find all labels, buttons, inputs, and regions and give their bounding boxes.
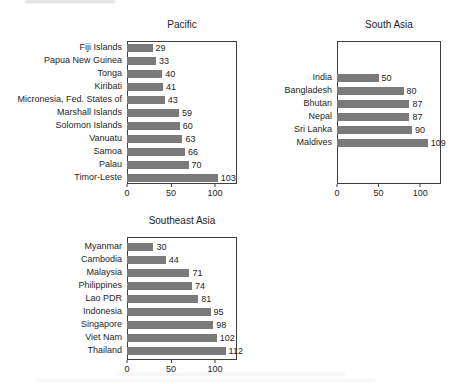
axis-tick: 100 [207, 184, 222, 198]
figure-canvas: Pacific Fiji Islands29Papua New Guinea33… [0, 0, 459, 384]
bar-zone: 44 [127, 253, 237, 266]
bar [127, 269, 189, 277]
chart-row: Lao PDR81 [5, 292, 237, 305]
category-label: Fiji Islands [5, 41, 127, 54]
chart-rows: India50Bangladesh80Bhutan87Nepal87Sri La… [215, 41, 441, 184]
chart-rows: Fiji Islands29Papua New Guinea33Tonga40K… [5, 41, 237, 184]
category-label: Papua New Guinea [5, 54, 127, 67]
chart-row: Maldives109 [215, 136, 441, 149]
value-label: 41 [166, 82, 176, 92]
bar-zone: 87 [337, 110, 441, 123]
chart-title: Southeast Asia [127, 215, 237, 227]
chart-row: Solomon Islands60 [5, 119, 237, 132]
value-label: 33 [159, 56, 169, 66]
bar [127, 109, 179, 117]
chart-row: Marshall Islands59 [5, 106, 237, 119]
chart-row: Bhutan87 [215, 97, 441, 110]
axis-tick: 0 [124, 360, 129, 374]
chart-row: Palau70 [5, 158, 237, 171]
category-label: Indonesia [5, 305, 127, 318]
chart-rows: Myanmar30Cambodia44Malaysia71Philippines… [5, 237, 237, 360]
category-label: Timor-Leste [5, 171, 127, 184]
bar [127, 256, 166, 264]
value-label: 74 [195, 281, 205, 291]
bar-zone: 90 [337, 123, 441, 136]
bar [127, 96, 165, 104]
bar [337, 113, 409, 121]
category-label: Malaysia [5, 266, 127, 279]
bar-zone: 95 [127, 305, 237, 318]
tick-mark [215, 360, 216, 363]
bar [337, 74, 379, 82]
bar [127, 70, 162, 78]
category-label: Micronesia, Fed. States of [5, 93, 127, 106]
bar [127, 57, 156, 65]
axis-tick: 100 [207, 360, 222, 374]
plot-area: Myanmar30Cambodia44Malaysia71Philippines… [5, 237, 237, 360]
tick-label: 100 [413, 188, 428, 198]
chart-row: Timor-Leste103 [5, 171, 237, 184]
value-label: 112 [229, 346, 243, 356]
bar-zone: 80 [337, 84, 441, 97]
bar [337, 126, 412, 134]
tick-mark [378, 184, 379, 187]
axis-tick: 100 [413, 184, 428, 198]
tick-mark [420, 184, 421, 187]
value-label: 71 [192, 268, 202, 278]
axis-tick: 50 [166, 360, 176, 374]
axis-tick: 50 [374, 184, 384, 198]
value-label: 63 [185, 134, 195, 144]
axis-tick: 50 [166, 184, 176, 198]
value-label: 30 [156, 242, 166, 252]
tick-mark [126, 184, 127, 187]
bar [127, 148, 185, 156]
tick-mark [215, 184, 216, 187]
category-label: Palau [5, 158, 127, 171]
chart-row: Malaysia71 [5, 266, 237, 279]
bar [337, 100, 409, 108]
bar-zone: 81 [127, 292, 237, 305]
tick-label: 0 [124, 188, 129, 198]
cropped-caption-artifact-bottom [115, 373, 345, 376]
chart-row: Bangladesh80 [215, 84, 441, 97]
bar-zone: 30 [127, 240, 237, 253]
category-label: Solomon Islands [5, 119, 127, 132]
x-axis: 050100 [337, 184, 441, 200]
bar-zone: 50 [337, 71, 441, 84]
value-label: 66 [188, 147, 198, 157]
bar [127, 161, 189, 169]
tick-label: 50 [374, 188, 384, 198]
category-label: Tonga [5, 67, 127, 80]
category-label: Lao PDR [5, 292, 127, 305]
value-label: 40 [165, 69, 175, 79]
value-label: 70 [192, 160, 202, 170]
bar [127, 321, 213, 329]
bar-zone: 98 [127, 318, 237, 331]
chart-row: Samoa66 [5, 145, 237, 158]
chart-row: Kiribati41 [5, 80, 237, 93]
bar-zone: 102 [127, 331, 237, 344]
category-label: Philippines [5, 279, 127, 292]
chart-row: Sri Lanka90 [215, 123, 441, 136]
category-label: Nepal [215, 110, 337, 123]
chart-row: Myanmar30 [5, 240, 237, 253]
category-label: Vanuatu [5, 132, 127, 145]
category-label: Samoa [5, 145, 127, 158]
bar [127, 308, 211, 316]
tick-mark [170, 360, 171, 363]
bar [127, 295, 198, 303]
bar-zone: 87 [337, 97, 441, 110]
bar [127, 122, 180, 130]
cropped-caption-artifact-bottom [35, 379, 375, 382]
cropped-caption-artifact-top [25, 0, 115, 3]
category-label: Maldives [215, 136, 337, 149]
chart-row: Papua New Guinea33 [5, 54, 237, 67]
bar [127, 135, 182, 143]
value-label: 29 [156, 43, 166, 53]
category-label: Marshall Islands [5, 106, 127, 119]
x-axis: 050100 [127, 184, 237, 200]
bar [127, 347, 226, 355]
chart-row: Philippines74 [5, 279, 237, 292]
chart-panel-southeast-asia: Southeast Asia Myanmar30Cambodia44Malays… [5, 215, 237, 360]
value-label: 90 [415, 125, 425, 135]
